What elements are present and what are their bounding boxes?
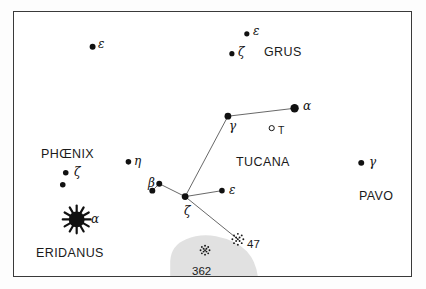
star-label-tuc-zeta: ζ bbox=[184, 205, 191, 217]
sky-graphics-layer bbox=[14, 12, 411, 276]
cluster-symbol-dot bbox=[204, 249, 206, 251]
star-label-tuc-beta-a: β bbox=[148, 177, 155, 189]
cluster-label-47: 47 bbox=[247, 239, 260, 251]
cluster-symbol-dot bbox=[237, 244, 239, 246]
cluster-symbol-dot bbox=[241, 242, 243, 244]
star-label-pav-gamma: γ bbox=[369, 156, 376, 168]
cluster-symbol-dot bbox=[237, 238, 239, 240]
magellanic-cloud-shape bbox=[170, 235, 258, 276]
cluster-symbol-dot bbox=[209, 249, 211, 251]
sky-chart-frame: GRUSPHŒNIXTUCANAPAVOERIDANUSεζεηζαγζβεγα… bbox=[13, 11, 412, 277]
variable-star-open-circle-icon bbox=[269, 126, 274, 131]
cluster-symbol-dot bbox=[239, 237, 241, 239]
variable-stars-group bbox=[269, 126, 274, 131]
star-dot bbox=[63, 170, 69, 176]
constellation-label-grus: GRUS bbox=[264, 46, 302, 59]
cluster-symbol-dot bbox=[231, 238, 233, 240]
cluster-symbol-dot bbox=[242, 238, 244, 240]
star-dot bbox=[126, 159, 132, 165]
stars-group bbox=[60, 31, 364, 200]
star-dot bbox=[358, 160, 364, 166]
star-dot bbox=[60, 182, 66, 188]
variable-star-label-T: T bbox=[278, 125, 284, 136]
constellation-label-eridanus: ERIDANUS bbox=[36, 247, 104, 260]
cluster-symbol-dot bbox=[235, 240, 237, 242]
cluster-symbol-dot bbox=[239, 240, 241, 242]
cluster-symbol-dot bbox=[203, 248, 205, 250]
cluster-symbol-dot bbox=[201, 252, 203, 254]
star-label-tuc-alpha: α bbox=[303, 100, 311, 112]
cluster-symbol-dot bbox=[233, 242, 235, 244]
cluster-symbol-dot bbox=[206, 248, 208, 250]
cluster-symbol-dot bbox=[207, 252, 209, 254]
star-chart-root: GRUSPHŒNIXTUCANAPAVOERIDANUSεζεηζαγζβεγα… bbox=[0, 0, 426, 289]
star-dot bbox=[156, 181, 162, 187]
star-label-phe-eta: η bbox=[134, 155, 141, 167]
cluster-symbol-dot bbox=[203, 251, 205, 253]
constellation-label-phœnix: PHŒNIX bbox=[41, 148, 94, 161]
cluster-symbol-dot bbox=[204, 245, 206, 247]
constellation-label-pavo: PAVO bbox=[359, 190, 393, 203]
cluster-symbol-dot bbox=[235, 237, 237, 239]
constellation-lines-group bbox=[152, 108, 294, 239]
star-label-grus-zeta: ζ bbox=[238, 46, 245, 58]
star-dot bbox=[90, 44, 96, 50]
constellation-line bbox=[159, 184, 185, 197]
cluster-symbol-dot bbox=[204, 254, 206, 256]
cluster-symbol-dot bbox=[233, 234, 235, 236]
star-dot bbox=[244, 31, 249, 36]
star-label-phe-eps: ε bbox=[98, 38, 104, 50]
star-dot bbox=[229, 51, 234, 56]
constellation-line bbox=[185, 197, 238, 240]
constellation-line bbox=[185, 191, 222, 197]
star-label-phe-zeta-a: ζ bbox=[74, 166, 81, 178]
star-dot bbox=[182, 193, 189, 200]
constellation-line bbox=[228, 108, 295, 116]
cluster-symbol-dot bbox=[237, 233, 239, 235]
star-label-tuc-eps: ε bbox=[229, 184, 235, 196]
star-label-eri-alpha: α bbox=[91, 213, 99, 225]
cluster-symbol-dot bbox=[201, 246, 203, 248]
bright-star-group bbox=[63, 206, 91, 234]
cluster-symbol-dot bbox=[200, 249, 202, 251]
nebulosity-group bbox=[170, 235, 258, 276]
cluster-label-362: 362 bbox=[192, 266, 211, 277]
cluster-symbol-dot bbox=[206, 251, 208, 253]
star-dot bbox=[290, 104, 298, 112]
bright-star-core bbox=[69, 211, 85, 227]
star-dot bbox=[219, 188, 225, 194]
cluster-symbol-dot bbox=[207, 246, 209, 248]
cluster-symbol-dot bbox=[241, 234, 243, 236]
star-label-tuc-gamma: γ bbox=[229, 120, 236, 132]
star-label-grus-eps: ε bbox=[253, 25, 259, 37]
constellation-label-tucana: TUCANA bbox=[236, 156, 290, 169]
constellation-line bbox=[185, 116, 228, 196]
